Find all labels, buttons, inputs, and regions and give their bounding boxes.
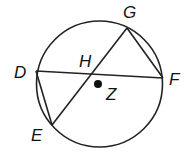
- label-z: Z: [105, 85, 117, 104]
- label-e: E: [31, 126, 43, 145]
- label-g: G: [123, 3, 136, 22]
- chord-ge: [52, 28, 127, 125]
- chord-gf: [127, 28, 163, 78]
- label-f: F: [169, 70, 181, 89]
- circle-diagram: G D F E H Z: [0, 0, 185, 162]
- label-d: D: [14, 63, 26, 82]
- center-point-z: [94, 80, 102, 88]
- label-h: H: [79, 52, 92, 71]
- chord-df: [36, 71, 163, 78]
